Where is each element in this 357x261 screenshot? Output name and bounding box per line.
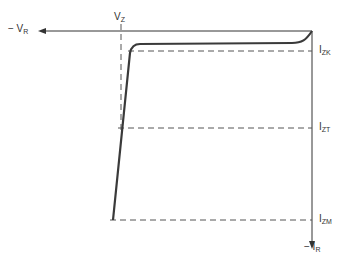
izm-label: IZM [319,213,332,225]
neg-ir-label: − IR [304,241,320,253]
izt-label: IZT [319,121,330,133]
izk-label: IZK [319,44,331,56]
zener-curve [113,31,312,220]
zener-characteristic-diagram [0,0,357,261]
vz-label: VZ [114,11,125,23]
neg-vr-label: − VR [8,23,28,35]
vr-axis-arrow-icon [38,28,46,34]
